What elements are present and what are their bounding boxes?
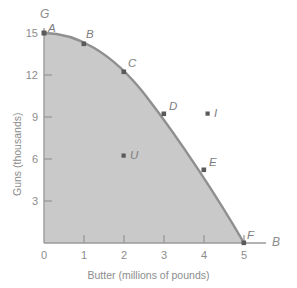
marker-point-c [122, 70, 127, 75]
y-tick-label-12: 12 [18, 70, 38, 81]
y-axis-letter-g: G [40, 8, 49, 20]
marker-point-a [42, 31, 47, 36]
point-label-d: D [169, 101, 177, 113]
point-label-f: F [247, 230, 254, 242]
point-label-c: C [128, 58, 136, 70]
point-label-e: E [209, 157, 217, 169]
point-label-u: U [130, 150, 138, 162]
marker-point-u [122, 154, 126, 158]
marker-point-d [162, 112, 167, 117]
marker-point-e [202, 168, 207, 173]
x-tick-label-2: 2 [116, 250, 132, 261]
y-tick-label-3: 3 [18, 196, 38, 207]
x-tick-label-5: 5 [236, 250, 252, 261]
point-label-i: I [214, 108, 217, 120]
point-label-b: B [86, 29, 94, 41]
x-axis-letter-b: B [272, 236, 280, 248]
ppf-chart: 15 12 9 6 3 0 1 2 3 4 5 A B C D E F U I … [0, 0, 297, 288]
attainable-region-shading [44, 33, 244, 243]
x-axis-title: Butter (millions of pounds) [0, 270, 297, 281]
x-tick-label-4: 4 [196, 250, 212, 261]
marker-point-i [206, 112, 210, 116]
marker-point-b [82, 42, 87, 47]
x-tick-label-1: 1 [76, 250, 92, 261]
x-tick-label-3: 3 [156, 250, 172, 261]
plot-area [0, 0, 297, 288]
point-label-a: A [48, 23, 56, 35]
y-axis-title: Guns (thousands) [12, 113, 23, 196]
y-tick-label-15: 15 [18, 28, 38, 39]
x-tick-label-0: 0 [36, 250, 52, 261]
marker-point-f [242, 241, 247, 246]
